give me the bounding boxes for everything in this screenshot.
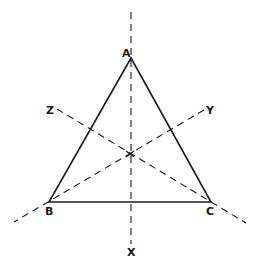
triangle-abc — [49, 58, 211, 202]
axis-z-line — [57, 109, 246, 223]
vertex-label-b: B — [45, 205, 53, 218]
vertex-label-c: C — [206, 205, 214, 218]
axis-label-z: Z — [46, 104, 54, 117]
vertex-label-a: A — [122, 47, 131, 60]
axis-label-y: Y — [205, 104, 215, 117]
symmetry-diagram: A B C X Y Z — [0, 0, 257, 265]
centroid-mark — [126, 151, 134, 157]
axis-label-x: X — [127, 246, 136, 259]
axis-y-line — [14, 110, 204, 222]
